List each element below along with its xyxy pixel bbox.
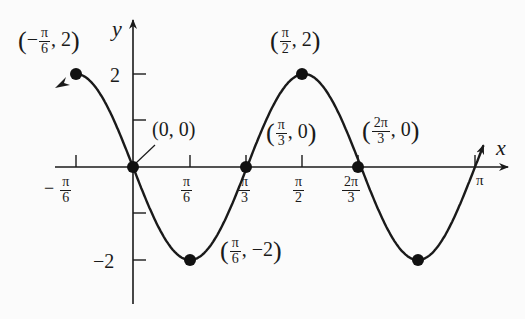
x-tick-label-pi-2: π2 (292, 175, 305, 205)
x-tick-label-pi: π (476, 173, 484, 188)
point-label-pi-2-2: (π2, 2) (270, 26, 320, 56)
y-axis-label: y (112, 18, 122, 40)
point-label-origin: (0, 0) (152, 119, 195, 139)
y-tick-label-2: 2 (110, 65, 120, 85)
origin-leader (136, 145, 155, 163)
x-tick-label-neg-pi-6: −π6 (44, 175, 72, 205)
x-axis-label: x (496, 137, 506, 159)
point-label-pi-3-0: (π3, 0) (266, 118, 316, 148)
point-label-pi-6-neg2: (π6, −2) (220, 236, 282, 266)
graph: y x 2 −2 −π6 π6 π3 π2 2π3 π (−π6, 2) (0,… (0, 0, 525, 319)
point-label-neg-pi-6-2: (−π6, 2) (18, 26, 80, 56)
point-label-2pi-3-0: (2π3, 0) (362, 116, 419, 146)
y-tick-label-neg2: −2 (93, 251, 114, 271)
x-tick-label-pi-3: π3 (238, 175, 251, 205)
left-arrow-icon (55, 77, 70, 88)
x-tick-label-2pi-3: 2π3 (341, 175, 361, 205)
x-tick-label-pi-6: π6 (180, 175, 193, 205)
